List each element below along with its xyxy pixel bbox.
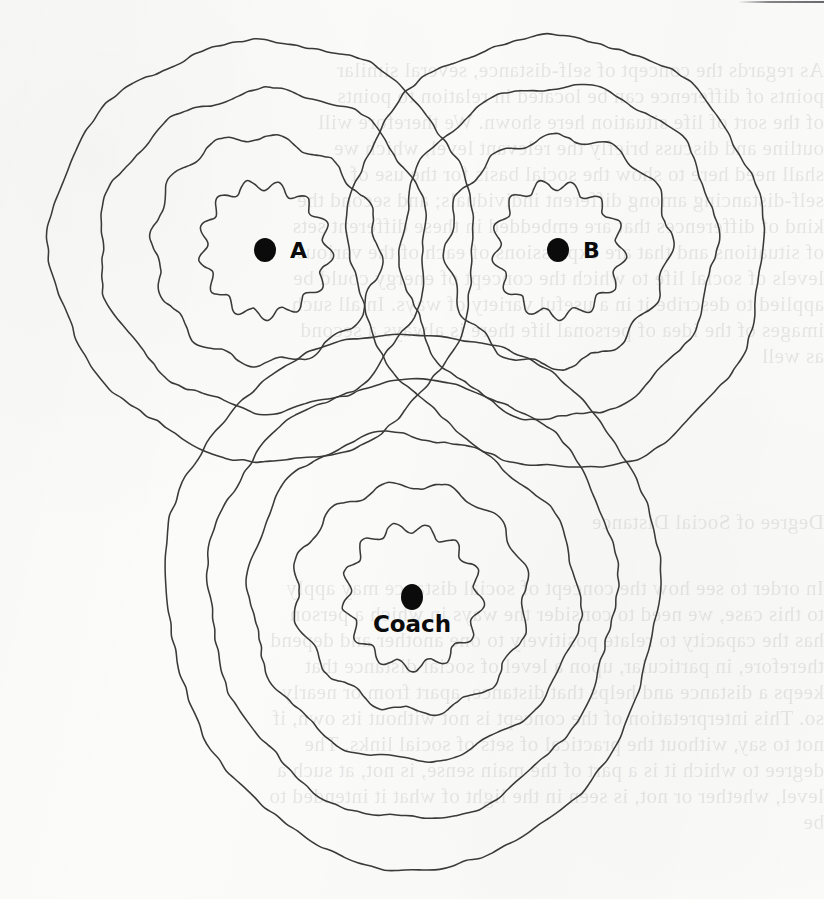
peak-label-a: A [290, 238, 307, 263]
figure-page: As regards the concept of self-distance,… [0, 0, 824, 899]
peak-dot-a [254, 238, 276, 262]
peak-label-b: B [583, 238, 600, 263]
peak-label-coach: Coach [373, 611, 451, 637]
contour-diagram: ABCoach [0, 0, 824, 899]
peak-dot-coach [401, 584, 423, 610]
peak-dot-b [547, 238, 569, 262]
peak-marker-group: ABCoach [254, 238, 600, 637]
contour-ring-group [46, 34, 764, 871]
